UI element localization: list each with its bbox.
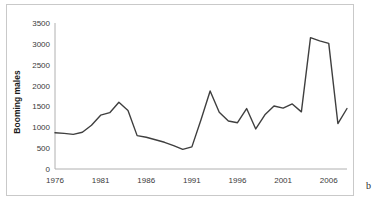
y-axis-title-group: Booming males bbox=[12, 70, 22, 134]
x-tick-label: 1996 bbox=[229, 176, 247, 185]
x-tick-label: 1981 bbox=[92, 176, 110, 185]
y-tick-label: 3000 bbox=[32, 40, 50, 49]
x-tick-label: 2001 bbox=[274, 176, 292, 185]
y-tick-label: 1000 bbox=[32, 123, 50, 132]
x-axis-tick-labels: 1976198119861991199620012006 bbox=[46, 176, 338, 185]
x-tick-label: 2006 bbox=[320, 176, 338, 185]
y-tick-label: 500 bbox=[37, 144, 51, 153]
y-tick-label: 1500 bbox=[32, 102, 50, 111]
chart-frame: Booming males 05001000150020002500300035… bbox=[6, 4, 354, 196]
y-tick-label: 0 bbox=[46, 165, 51, 174]
y-tick-label: 2500 bbox=[32, 61, 50, 70]
x-tick-label: 1976 bbox=[46, 176, 64, 185]
y-tick-label: 2000 bbox=[32, 82, 50, 91]
data-series-booming-males bbox=[55, 38, 347, 150]
y-axis-tick-labels: 0500100015002000250030003500 bbox=[32, 19, 50, 174]
line-chart: Booming males 05001000150020002500300035… bbox=[7, 5, 353, 195]
y-tick-label: 3500 bbox=[32, 19, 50, 28]
x-tick-label: 1986 bbox=[137, 176, 155, 185]
panel-label: b bbox=[366, 180, 371, 191]
y-axis-title: Booming males bbox=[12, 70, 22, 134]
figure-panel: Booming males 05001000150020002500300035… bbox=[0, 0, 383, 204]
x-tick-label: 1991 bbox=[183, 176, 201, 185]
